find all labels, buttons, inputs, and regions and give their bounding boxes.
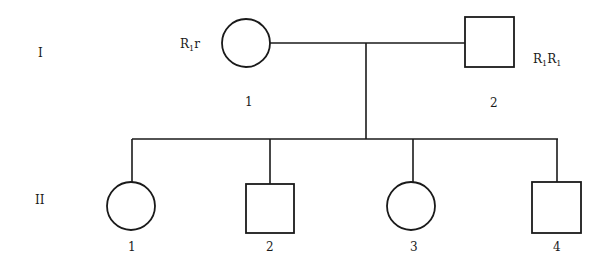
individual-number-II-2: 2 bbox=[266, 240, 274, 254]
individual-II-3: 3 bbox=[387, 182, 435, 254]
individual-number-II-4: 4 bbox=[553, 240, 561, 254]
genotype-label-I-2: R1R1 bbox=[533, 52, 561, 68]
genotype-label-I-1: R1r bbox=[180, 37, 200, 53]
male-square-icon bbox=[246, 184, 294, 233]
individual-II-2: 2 bbox=[246, 184, 294, 254]
individual-I-1: R1r 1 bbox=[180, 19, 270, 109]
individual-II-4: 4 bbox=[532, 182, 581, 254]
male-square-icon bbox=[532, 182, 581, 233]
individual-number-I-2: 2 bbox=[490, 96, 498, 110]
individual-I-2: R1R1 2 bbox=[465, 17, 561, 110]
individual-number-I-1: 1 bbox=[245, 95, 253, 109]
generation-label-I: I bbox=[38, 46, 43, 60]
female-circle-icon bbox=[387, 182, 435, 230]
pedigree-chart: I II R1r 1 R1R1 2 1 2 3 4 bbox=[0, 0, 612, 268]
individual-II-1: 1 bbox=[107, 182, 155, 254]
female-circle-icon bbox=[222, 19, 270, 67]
individual-number-II-1: 1 bbox=[128, 240, 136, 254]
male-square-icon bbox=[465, 17, 514, 67]
female-circle-icon bbox=[107, 182, 155, 230]
generation-label-II: II bbox=[35, 193, 45, 207]
individual-number-II-3: 3 bbox=[410, 240, 418, 254]
